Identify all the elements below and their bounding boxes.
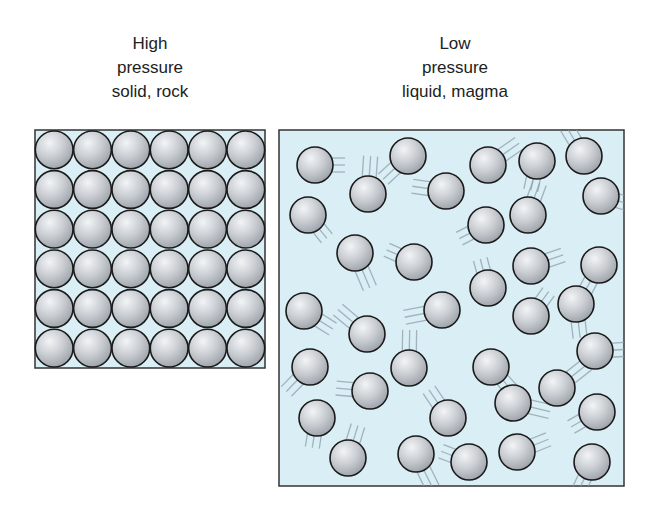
particle xyxy=(513,298,549,334)
particle xyxy=(35,250,73,288)
particle xyxy=(430,400,466,436)
particle xyxy=(74,210,112,248)
particle xyxy=(189,171,227,209)
particle xyxy=(227,329,265,367)
particle xyxy=(150,329,188,367)
particle xyxy=(189,290,227,328)
particle xyxy=(337,235,373,271)
particle xyxy=(473,349,509,385)
particle xyxy=(290,197,326,233)
solid-rock-box xyxy=(35,130,265,368)
particle xyxy=(286,293,322,329)
particle xyxy=(112,171,150,209)
particle xyxy=(189,210,227,248)
particle xyxy=(227,250,265,288)
particle xyxy=(227,290,265,328)
solid-box-frame xyxy=(35,130,265,368)
particle xyxy=(499,434,535,470)
particle xyxy=(513,248,549,284)
particle xyxy=(398,436,434,472)
particle xyxy=(583,178,619,214)
particle xyxy=(510,197,546,233)
particle xyxy=(227,171,265,209)
particle xyxy=(470,147,506,183)
particle xyxy=(150,131,188,169)
particle xyxy=(112,131,150,169)
particle xyxy=(35,329,73,367)
particle xyxy=(350,176,386,212)
particle xyxy=(150,171,188,209)
particle xyxy=(227,210,265,248)
particle-diagram xyxy=(0,0,652,516)
particle xyxy=(468,207,504,243)
particle xyxy=(35,131,73,169)
particle xyxy=(391,350,427,386)
particle xyxy=(577,333,613,369)
particle xyxy=(330,440,366,476)
particle xyxy=(35,210,73,248)
particle xyxy=(112,250,150,288)
particle xyxy=(74,131,112,169)
particle xyxy=(292,349,328,385)
particle xyxy=(74,329,112,367)
particle xyxy=(579,394,615,430)
particle xyxy=(112,210,150,248)
particle xyxy=(297,147,333,183)
particle xyxy=(189,329,227,367)
particle xyxy=(519,143,555,179)
liquid-magma-box xyxy=(279,123,639,499)
particle xyxy=(390,138,426,174)
particle xyxy=(227,131,265,169)
particle xyxy=(574,444,610,480)
particle xyxy=(424,292,460,328)
particle xyxy=(74,250,112,288)
particle xyxy=(396,244,432,280)
particle xyxy=(451,444,487,480)
particle xyxy=(566,138,602,174)
particle xyxy=(150,290,188,328)
particle xyxy=(150,250,188,288)
particle xyxy=(495,385,531,421)
particle xyxy=(74,171,112,209)
particle xyxy=(189,250,227,288)
particle xyxy=(74,290,112,328)
particle xyxy=(349,316,385,352)
particle xyxy=(150,210,188,248)
particle xyxy=(112,329,150,367)
particle xyxy=(470,270,506,306)
particle xyxy=(189,131,227,169)
particle xyxy=(558,286,594,322)
particle xyxy=(539,370,575,406)
particle xyxy=(428,173,464,209)
particle xyxy=(352,373,388,409)
particle xyxy=(112,290,150,328)
particle xyxy=(299,400,335,436)
particle xyxy=(35,171,73,209)
particle xyxy=(581,247,617,283)
particle xyxy=(35,290,73,328)
